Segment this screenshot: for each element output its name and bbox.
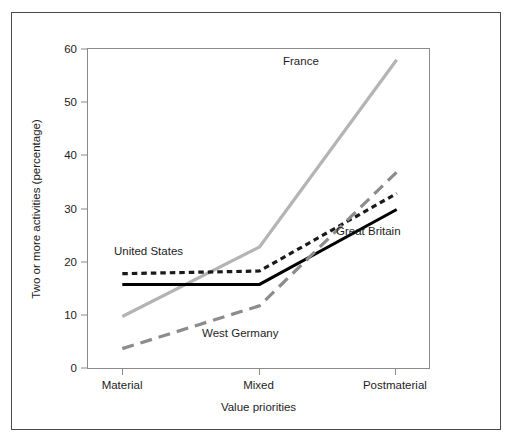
y-tick-mark bbox=[81, 261, 88, 262]
y-tick-mark bbox=[81, 155, 88, 156]
x-tick-label: Material bbox=[102, 379, 143, 391]
figure-frame: Two or more activities (percentage) 60 5… bbox=[11, 12, 501, 430]
series-label-west-germany: West Germany bbox=[202, 327, 278, 339]
line-france bbox=[122, 60, 396, 317]
x-tick-label: Postmaterial bbox=[363, 379, 427, 391]
plot-area: 60 50 40 30 20 10 0 Material Mixed Postm… bbox=[87, 48, 430, 369]
y-tick-mark bbox=[81, 102, 88, 103]
line-west-germany bbox=[122, 172, 396, 349]
x-tick-label: Mixed bbox=[243, 379, 274, 391]
series-label-united-states: United States bbox=[114, 245, 183, 257]
y-tick-mark bbox=[81, 49, 88, 50]
x-axis-title: Value priorities bbox=[87, 401, 430, 413]
y-tick-mark bbox=[81, 368, 88, 369]
series-label-france: France bbox=[283, 55, 319, 67]
series-lines bbox=[88, 49, 431, 370]
y-tick-mark bbox=[81, 314, 88, 315]
y-tick-mark bbox=[81, 208, 88, 209]
series-label-great-britain: Great Britain bbox=[336, 225, 401, 237]
